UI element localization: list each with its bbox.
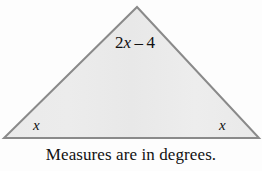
base-angle-label-left: x (33, 118, 40, 133)
figure-caption: Measures are in degrees. (0, 144, 262, 166)
apex-angle-variable: x (124, 33, 132, 52)
base-angle-label-right: x (219, 118, 226, 133)
apex-angle-operator: – (135, 33, 144, 52)
apex-angle-constant: 4 (146, 33, 155, 52)
geometry-figure: 2x – 4 x x Measures are in degrees. (0, 0, 262, 171)
apex-angle-coefficient: 2 (115, 33, 124, 52)
apex-angle-label: 2x – 4 (103, 34, 167, 51)
triangle-diagram: 2x – 4 x x (0, 0, 262, 145)
